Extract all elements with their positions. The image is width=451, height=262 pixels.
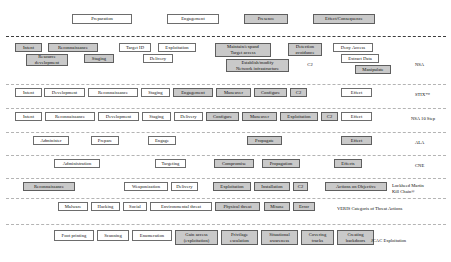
stage-box-r4-0: Administration: [54, 159, 100, 168]
row-label-4: CNE: [415, 163, 424, 169]
stage-box-r3-1: Prepare: [91, 136, 119, 145]
row-label-2: NSA 10 Step: [411, 116, 435, 122]
stage-box-r1-1: Development: [44, 88, 85, 97]
stage-box-r0-2: Resource development: [26, 54, 68, 66]
stage-box-r6-6: Error: [293, 202, 315, 211]
stage-box-r1-2: Reconnaissance: [88, 88, 138, 97]
stage-box-r0-13: Manipulate: [355, 65, 391, 74]
row-separator-4: [6, 155, 446, 156]
stage-box-r0-8: Establish/modify Network infrastructure: [226, 59, 289, 72]
row-separator-5: [6, 178, 446, 179]
stage-box-r5-2: Delivery: [171, 182, 198, 191]
stage-box-r2-4: Delivery: [174, 112, 203, 121]
stage-box-r0-6: Delivery: [143, 54, 173, 63]
stage-box-r6-3: Environmental threat: [150, 202, 212, 211]
stage-box-r0-5: Exploitation: [158, 43, 196, 52]
stage-box-r4-3: Propagation: [262, 159, 300, 168]
stage-box-r6-1: Hacking: [91, 202, 120, 211]
stage-box-r0-12: Extract Data: [341, 54, 379, 63]
stage-box-r1-5: Maneuver: [216, 88, 251, 97]
stage-box-r0-3: Staging: [84, 54, 114, 63]
stage-box-r7-7: Creating backdoors: [337, 230, 374, 245]
stage-box-r0-1: Reconnaissance: [48, 43, 98, 52]
stage-box-r7-0: Foot printing: [54, 230, 94, 241]
stage-box-r7-6: Covering tracks: [301, 230, 334, 245]
stage-box-r7-1: Scanning: [97, 230, 129, 241]
stage-box-r7-3: Gain access (exploitation): [175, 230, 218, 245]
stage-box-r2-9: Effect: [341, 112, 372, 121]
stage-box-r1-7: C2: [290, 88, 307, 97]
stage-box-r3-0: Administer: [33, 136, 69, 145]
stage-box-r0-7: Maintain/expand Target access: [215, 43, 271, 57]
phase-box-2: Presence: [244, 14, 288, 24]
stage-box-r1-4: Engagement: [173, 88, 213, 97]
stage-box-r2-7: Exploitation: [280, 112, 318, 121]
row-separator-6: [6, 198, 446, 199]
stage-box-r5-3: Exploitation: [213, 182, 251, 191]
stage-box-r2-6: Maneuver: [242, 112, 277, 121]
row-label-7: JCAC Exploitation: [371, 238, 406, 244]
stage-box-r6-0: Malware: [58, 202, 88, 211]
stage-box-r1-6: Configure: [254, 88, 287, 97]
phase-box-0: Preparation: [72, 14, 132, 24]
lifecycle-comparison-diagram: PreparationEngagementPresenceEffect/Cons…: [0, 0, 451, 262]
row-label-1: STIX™: [415, 92, 430, 98]
stage-box-r2-1: Reconnaissance: [45, 112, 95, 121]
stage-box-r5-4: Installation: [254, 182, 290, 191]
stage-box-r3-2: Engage: [148, 136, 176, 145]
stage-box-r0-11: Deny Access: [333, 43, 373, 52]
stage-box-r2-3: Staging: [142, 112, 171, 121]
stage-box-r3-3: Propagate: [247, 136, 282, 145]
row-separator-3: [6, 132, 446, 133]
row-separator-0: [6, 36, 446, 37]
stage-box-r0-4: Target ID: [119, 43, 151, 52]
stage-box-r1-3: Staging: [141, 88, 170, 97]
row-label-0: NSA: [415, 62, 424, 68]
stage-box-r6-5: Misuse: [264, 202, 290, 211]
stage-box-r7-5: Situational awareness: [261, 230, 298, 245]
stage-box-r2-5: Configure: [206, 112, 239, 121]
stage-box-r2-8: C2: [321, 112, 338, 121]
stage-box-r0-9: Detection avoidance: [288, 43, 322, 56]
stage-box-r5-5: C2: [293, 182, 308, 191]
stage-box-r2-0: Intent: [15, 112, 42, 121]
stage-box-r6-4: Physical threat: [215, 202, 260, 211]
row-separator-1: [6, 84, 446, 85]
row-separator-2: [6, 108, 446, 109]
stage-box-r5-1: Weaponization: [124, 182, 168, 191]
stage-box-r5-6: Actions on Objective: [325, 182, 387, 191]
stage-box-r6-2: Social: [123, 202, 147, 211]
stage-box-r7-2: Enumeration: [132, 230, 172, 241]
row-label-3: ALA: [415, 140, 424, 146]
phase-box-1: Engagement: [167, 14, 219, 24]
row-label-6: VERIS Categoris of Threat Actions: [337, 206, 402, 212]
stage-box-r4-2: Compromise: [214, 159, 254, 168]
stage-box-r1-8: Effect: [341, 88, 372, 97]
stage-box-r4-1: Targeting: [155, 159, 186, 168]
stage-box-r3-4: Effect: [341, 136, 372, 145]
stage-box-r5-0: Reconnaissance: [23, 182, 75, 191]
row-separator-7: [6, 224, 446, 225]
row-label-5: Lockheed Martin Kill Chain®: [392, 183, 424, 194]
stage-box-r1-0: Intent: [15, 88, 42, 97]
stage-box-r7-4: Privilage escalation: [221, 230, 258, 245]
stage-box-r4-4: Effects: [334, 159, 362, 168]
phase-box-3: Effect/Consequence: [313, 14, 375, 24]
stage-box-r0-10: C2: [304, 61, 316, 69]
stage-box-r0-0: Intent: [15, 43, 42, 52]
stage-box-r2-2: Development: [98, 112, 139, 121]
